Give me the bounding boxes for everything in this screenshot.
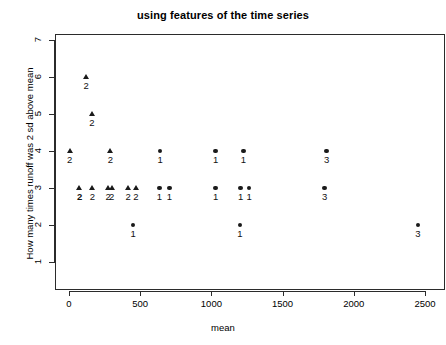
- circle-marker-icon: [213, 149, 218, 154]
- y-tick-5: [49, 114, 54, 115]
- data-point-label: 1: [233, 229, 247, 239]
- data-point-label: 1: [209, 155, 223, 165]
- data-point-label: 1: [242, 192, 256, 202]
- x-tick-label-500: 500: [118, 298, 162, 309]
- x-tick-2500: [425, 291, 426, 296]
- x-axis-title: mean: [0, 322, 446, 333]
- scatter-plot-figure: using features of the time series 050010…: [0, 0, 446, 345]
- data-point-label: 2: [103, 155, 117, 165]
- y-tick-4: [49, 151, 54, 152]
- data-point-label: 2: [85, 192, 99, 202]
- triangle-marker-icon: [67, 148, 73, 153]
- data-point-label: 1: [209, 192, 223, 202]
- data-point-label: 3: [318, 192, 332, 202]
- x-tick-label-2500: 2500: [403, 298, 446, 309]
- x-tick-0: [69, 291, 70, 296]
- x-tick-500: [140, 291, 141, 296]
- circle-marker-icon: [157, 186, 162, 191]
- x-tick-label-0: 0: [47, 298, 91, 309]
- y-tick-2: [49, 225, 54, 226]
- triangle-marker-icon: [89, 111, 95, 116]
- data-point-label: 3: [320, 155, 334, 165]
- data-point-label: 1: [126, 229, 140, 239]
- circle-marker-icon: [241, 149, 246, 154]
- y-tick-6: [49, 77, 54, 78]
- y-tick-3: [49, 188, 54, 189]
- triangle-marker-icon: [125, 185, 131, 190]
- y-axis-title: How many times runoff was 2 sd above mea…: [24, 39, 35, 289]
- data-point-label: 2: [79, 81, 93, 91]
- data-point-label: 2: [85, 118, 99, 128]
- x-tick-label-1500: 1500: [261, 298, 305, 309]
- data-point-label: 1: [236, 155, 250, 165]
- triangle-marker-icon: [83, 74, 89, 79]
- circle-marker-icon: [213, 186, 218, 191]
- data-point-label: 2: [63, 155, 77, 165]
- y-tick-7: [49, 40, 54, 41]
- x-axis-line: [69, 291, 426, 292]
- data-point-label: 1: [153, 155, 167, 165]
- triangle-marker-icon: [109, 185, 115, 190]
- data-point-label: 3: [411, 229, 425, 239]
- x-tick-1500: [283, 291, 284, 296]
- triangle-marker-icon: [89, 185, 95, 190]
- data-point-label: 1: [162, 192, 176, 202]
- x-tick-label-2000: 2000: [332, 298, 376, 309]
- y-axis-line: [54, 40, 55, 263]
- x-tick-2000: [354, 291, 355, 296]
- triangle-marker-icon: [76, 185, 82, 190]
- x-tick-label-1000: 1000: [189, 298, 233, 309]
- x-tick-1000: [211, 291, 212, 296]
- y-tick-1: [49, 262, 54, 263]
- circle-marker-icon: [167, 186, 172, 191]
- data-point-label: 2: [105, 192, 119, 202]
- triangle-marker-icon: [133, 185, 139, 190]
- circle-marker-icon: [322, 186, 327, 191]
- chart-title: using features of the time series: [0, 8, 446, 22]
- triangle-marker-icon: [107, 148, 113, 153]
- data-point-label: 2: [129, 192, 143, 202]
- circle-marker-icon: [238, 186, 243, 191]
